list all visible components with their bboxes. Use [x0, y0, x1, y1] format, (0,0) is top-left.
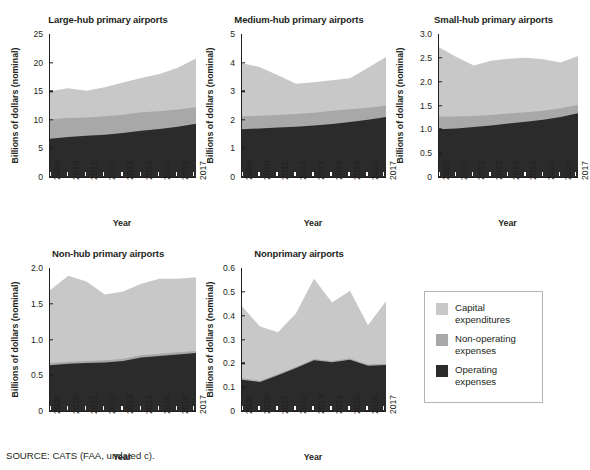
- x-axis-tick-mark: [121, 172, 122, 176]
- x-axis-tick-mark: [67, 406, 68, 410]
- plot-area: [241, 34, 386, 178]
- legend-label-operating: Operating expenses: [455, 364, 497, 387]
- x-axis-tick-mark: [294, 172, 295, 176]
- x-axis-tick-label: 2014: [528, 161, 538, 180]
- y-axis-tick-mark: [49, 303, 53, 304]
- x-axis-tick-label: 2015: [352, 395, 362, 414]
- x-axis-tick-mark: [140, 172, 141, 176]
- x-axis-title: Year: [241, 218, 385, 228]
- x-axis-tick-mark: [330, 172, 331, 176]
- chart-title: Large-hub primary airports: [15, 14, 201, 25]
- y-axis-tick-mark: [241, 339, 245, 340]
- x-axis-tick-mark: [383, 172, 384, 176]
- legend-label-nonoperating: Non-operating expenses: [455, 333, 516, 356]
- x-axis-tick-mark: [330, 406, 331, 410]
- y-axis-tick-mark: [49, 339, 53, 340]
- y-axis-tick-mark: [241, 315, 245, 316]
- x-axis-tick-mark: [348, 406, 349, 410]
- x-axis-tick-mark: [294, 406, 295, 410]
- x-axis-tick-mark: [348, 172, 349, 176]
- legend-swatch-nonoperating: [436, 334, 448, 346]
- x-axis-tick-label: 2013: [511, 161, 521, 180]
- x-axis-tick-mark: [472, 172, 473, 176]
- x-axis-tick-label: 2013: [125, 395, 135, 414]
- x-axis-tick-mark: [276, 172, 277, 176]
- y-axis-tick-mark: [241, 90, 245, 91]
- x-axis-tick-label: 2009: [244, 395, 254, 414]
- x-axis-tick-label: 2013: [316, 395, 326, 414]
- x-axis-tick-label: 2012: [298, 395, 308, 414]
- x-axis-tick-label: 2011: [89, 396, 99, 414]
- y-axis-title: Billions of dollars (nominal): [205, 268, 215, 411]
- x-axis-tick-label: 2010: [71, 161, 81, 180]
- x-axis-tick-mark: [242, 406, 243, 410]
- x-axis-tick-mark: [158, 406, 159, 410]
- chart-title: Medium-hub primary airports: [207, 14, 391, 25]
- x-axis-tick-mark: [542, 172, 543, 176]
- y-axis-tick-mark: [438, 129, 442, 130]
- x-axis-tick-mark: [455, 172, 456, 176]
- x-axis-tick-label: 2012: [107, 161, 117, 180]
- y-axis-tick-mark: [241, 386, 245, 387]
- legend-item-capital: Capital expenditures: [436, 302, 510, 325]
- x-axis-tick-label: 2016: [180, 395, 190, 414]
- chart-title: Nonprimary airports: [207, 248, 391, 259]
- legend-swatch-operating: [436, 365, 448, 377]
- y-axis-tick-mark: [241, 62, 245, 63]
- y-axis-tick-mark: [438, 57, 442, 58]
- y-axis-tick-mark: [49, 90, 53, 91]
- x-axis-tick-mark: [439, 172, 440, 176]
- x-axis-tick-mark: [489, 172, 490, 176]
- chart-panel-non-hub: Non-hub primary airports00.51.01.52.0200…: [8, 248, 201, 470]
- x-axis-tick-mark: [140, 406, 141, 410]
- y-axis-title: Billions of dollars (nominal): [205, 34, 215, 177]
- x-axis-tick-label: 2012: [494, 161, 504, 180]
- x-axis-tick-mark: [176, 172, 177, 176]
- x-axis-tick-mark: [176, 406, 177, 410]
- y-axis-tick-mark: [438, 152, 442, 153]
- legend-swatch-capital: [436, 303, 448, 315]
- x-axis-tick-label: 2014: [144, 161, 154, 180]
- legend-item-operating: Operating expenses: [436, 364, 497, 387]
- x-axis-tick-mark: [258, 406, 259, 410]
- chart-title: Non-hub primary airports: [15, 248, 201, 259]
- x-axis-tick-label: 2009: [441, 161, 451, 180]
- x-axis-tick-mark: [67, 172, 68, 176]
- x-axis-tick-label: 2014: [334, 161, 344, 180]
- x-axis-tick-label: 2016: [370, 395, 380, 414]
- x-axis-tick-mark: [158, 172, 159, 176]
- x-axis-tick-mark: [85, 172, 86, 176]
- x-axis-tick-label: 2010: [71, 395, 81, 414]
- x-axis-tick-label: 2017: [580, 161, 590, 180]
- x-axis-tick-label: 2015: [352, 161, 362, 180]
- x-axis-tick-mark: [312, 172, 313, 176]
- x-axis-tick-label: 2011: [280, 396, 290, 414]
- x-axis-tick-mark: [524, 172, 525, 176]
- y-axis-tick-mark: [438, 81, 442, 82]
- x-axis-tick-mark: [103, 172, 104, 176]
- x-axis-tick-label: 2011: [476, 162, 486, 180]
- legend-item-nonoperating: Non-operating expenses: [436, 333, 516, 356]
- chart-panel-large-hub: Large-hub primary airports05101520252009…: [8, 14, 201, 247]
- x-axis-tick-mark: [312, 406, 313, 410]
- x-axis-title: Year: [438, 218, 577, 228]
- x-axis-tick-mark: [242, 172, 243, 176]
- source-note: SOURCE: CATS (FAA, undated c).: [6, 450, 155, 461]
- x-axis-tick-label: 2010: [459, 161, 469, 180]
- y-axis-title: Billions of dollars (nominal): [10, 34, 20, 177]
- y-axis-tick-mark: [241, 119, 245, 120]
- x-axis-tick-label: 2013: [316, 161, 326, 180]
- x-axis-tick-label: 2012: [298, 161, 308, 180]
- x-axis-tick-label: 2010: [262, 395, 272, 414]
- x-axis-tick-label: 2009: [52, 395, 62, 414]
- x-axis-tick-mark: [193, 172, 194, 176]
- y-axis-title: Billions of dollars (nominal): [395, 34, 405, 177]
- x-axis-tick-label: 2016: [370, 161, 380, 180]
- x-axis-title: Year: [241, 452, 385, 462]
- x-axis-tick-label: 2013: [125, 161, 135, 180]
- x-axis-tick-mark: [559, 172, 560, 176]
- x-axis-tick-mark: [50, 406, 51, 410]
- y-axis-tick-mark: [241, 148, 245, 149]
- x-axis-tick-label: 2015: [162, 161, 172, 180]
- y-axis-title: Billions of dollars (nominal): [10, 268, 20, 411]
